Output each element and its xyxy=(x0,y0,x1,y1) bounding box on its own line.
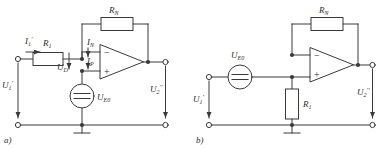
input-terminal-bottom-b[interactable] xyxy=(206,122,211,127)
circuit-b xyxy=(206,18,375,134)
input-terminal-b[interactable] xyxy=(206,74,211,79)
label-opamp-plus-a: + xyxy=(104,66,110,77)
label-ue0-b: UE0 xyxy=(231,50,244,61)
label-ip-a: IP xyxy=(86,56,94,67)
caption-a: a) xyxy=(4,135,12,145)
label-u1-a: U1' xyxy=(2,79,14,91)
output-terminal-b[interactable] xyxy=(370,62,375,67)
figure-opamp-circuits: I1' R1 RN IN IP UD UE0 U1' U2'' − + a) R… xyxy=(0,0,382,148)
voltage-source-ue0-b xyxy=(228,65,252,89)
label-opamp-minus-a: − xyxy=(104,47,110,58)
label-ue0-a: UE0 xyxy=(97,92,110,103)
label-opamp-plus-b: + xyxy=(314,69,320,80)
resistor-rn-a xyxy=(101,18,133,31)
circuit-a xyxy=(15,18,168,134)
label-rn-b: RN xyxy=(318,5,330,16)
resistor-rn-b xyxy=(311,18,343,31)
output-terminal-a[interactable] xyxy=(163,59,168,64)
label-u1-b: U1' xyxy=(193,93,205,105)
circuit-diagram-svg: I1' R1 RN IN IP UD UE0 U1' U2'' − + a) R… xyxy=(0,0,382,148)
output-terminal-bottom-b[interactable] xyxy=(370,122,375,127)
label-r1-b: R1 xyxy=(302,99,312,110)
label-rn-a: RN xyxy=(108,5,120,16)
label-ud-a: UD xyxy=(57,62,69,73)
label-opamp-minus-b: − xyxy=(314,50,320,61)
caption-b: b) xyxy=(196,135,204,145)
output-terminal-bottom-a[interactable] xyxy=(163,122,168,127)
input-terminal-bottom-a[interactable] xyxy=(15,122,20,127)
label-i1-a: I1' xyxy=(24,35,33,47)
label-u2-a: U2'' xyxy=(150,83,163,95)
label-in-a: IN xyxy=(86,37,95,48)
input-terminal-a[interactable] xyxy=(15,56,20,61)
resistor-r1-b xyxy=(286,89,299,119)
label-u2-b: U2'' xyxy=(357,86,370,98)
voltage-source-ue0-a xyxy=(70,84,94,108)
label-r1-a: R1 xyxy=(42,38,52,49)
